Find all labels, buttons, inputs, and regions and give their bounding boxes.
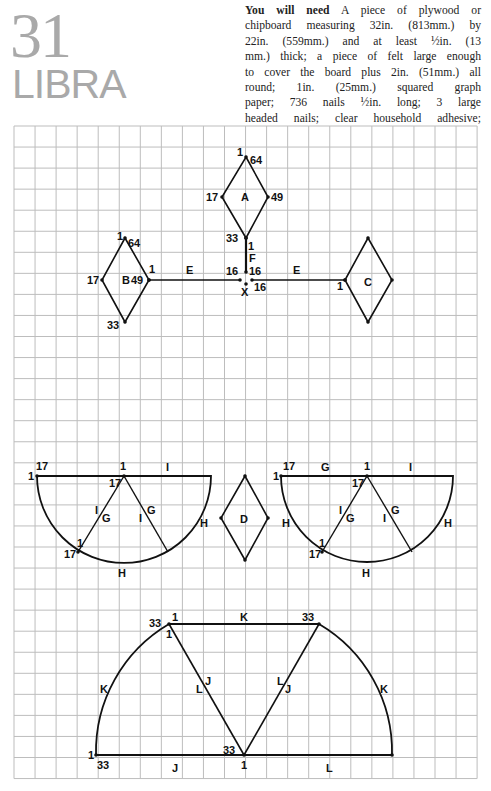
nail-dot [147, 278, 151, 282]
nail-dot [343, 278, 347, 282]
nail-label: 17 [309, 548, 321, 560]
nail-label: H [444, 517, 452, 529]
nail-label: B [122, 274, 130, 286]
nail-label: C [364, 276, 372, 288]
nail-label: A [241, 191, 249, 203]
nail-dot [94, 753, 98, 757]
nail-label: E [186, 264, 193, 276]
nail-dot [238, 278, 242, 282]
nail-label: 1 [241, 759, 247, 771]
nail-label: 1 [117, 230, 123, 242]
nail-dot [390, 278, 394, 282]
nail-label: 17 [36, 460, 48, 472]
nail-label: G [346, 512, 355, 524]
nail-label: 16 [254, 281, 266, 293]
nail-label: 1 [77, 537, 83, 549]
graph-paper-grid [14, 126, 477, 779]
nail-label: G [147, 504, 156, 516]
right-half-chord [367, 476, 412, 552]
nail-label: 33 [149, 617, 161, 629]
nail-dot [220, 195, 224, 199]
nail-label: X [241, 286, 249, 298]
nail-label: 1 [88, 749, 94, 761]
nail-label: 17 [64, 548, 76, 560]
nail-label: H [282, 517, 290, 529]
nail-dot [244, 155, 248, 159]
nail-label: 33 [97, 759, 109, 771]
nail-label: I [166, 461, 169, 473]
nail-dot [279, 474, 283, 478]
nail-label: 1 [237, 146, 243, 158]
nail-dot [266, 195, 270, 199]
nail-label: 17 [87, 274, 99, 286]
nail-label: 33 [226, 232, 238, 244]
nail-dot [366, 320, 370, 324]
nail-label: H [362, 567, 370, 579]
nail-label: 33 [223, 744, 235, 756]
nail-label: 49 [271, 191, 283, 203]
bottom-diagonal-left [169, 624, 244, 755]
nail-label: 16 [249, 265, 261, 277]
nail-label: 16 [226, 265, 238, 277]
nail-label: 1 [337, 280, 343, 292]
nail-label: L [196, 683, 203, 695]
nail-label: D [240, 513, 248, 525]
nail-label: 1 [172, 611, 178, 623]
nail-label: H [200, 517, 208, 529]
nail-label: G [102, 512, 111, 524]
nail-dot [243, 558, 247, 562]
nail-dot [122, 474, 126, 478]
nail-label: J [285, 683, 291, 695]
nail-label: 64 [128, 237, 141, 249]
nail-dot [76, 550, 80, 554]
nail-label: G [321, 461, 330, 473]
nail-dot [266, 516, 270, 520]
nail-dot [317, 622, 321, 626]
nail-label: I [409, 461, 412, 473]
nail-label: 1 [120, 460, 126, 472]
nail-label: 1 [166, 628, 172, 640]
nail-label: K [100, 683, 108, 695]
nail-dot [390, 753, 394, 757]
nail-label: 17 [352, 477, 364, 489]
nail-label: 1 [364, 460, 370, 472]
nail-label: K [380, 683, 388, 695]
nail-label: 1 [248, 240, 254, 252]
nail-label: I [383, 512, 386, 524]
nail-label: 64 [250, 154, 263, 166]
nail-label: I [139, 512, 142, 524]
nail-label: J [172, 762, 178, 774]
nail-label: H [118, 567, 126, 579]
nail-label: K [240, 611, 248, 623]
bottom-diagonal-right [244, 624, 319, 755]
nail-dot [243, 474, 247, 478]
pattern-diagram: 16417A4933116417B49331C1DEEF161616X1711I… [0, 0, 491, 791]
nail-label: 33 [107, 319, 119, 331]
nail-label: 1 [28, 470, 34, 482]
nail-label: J [205, 675, 211, 687]
nail-label: 17 [283, 460, 295, 472]
nail-label: G [391, 504, 400, 516]
nail-label: 17 [206, 191, 218, 203]
nail-dot [35, 474, 39, 478]
nail-label: 1 [149, 263, 155, 275]
nail-label: 49 [131, 274, 143, 286]
nail-dot [123, 320, 127, 324]
nail-dot [242, 753, 246, 757]
nail-dot [219, 516, 223, 520]
nail-label: I [95, 504, 98, 516]
nail-dot [167, 622, 171, 626]
nail-label: E [293, 264, 300, 276]
nail-label: 33 [302, 611, 314, 623]
nail-dot [365, 474, 369, 478]
nail-dot [244, 270, 248, 274]
nail-labels: 16417A4933116417B49331C1DEEF161616X1711I… [28, 146, 452, 774]
nail-dot [366, 236, 370, 240]
nail-label: L [326, 762, 333, 774]
nail-label: 17 [109, 477, 121, 489]
right-half-outline [281, 476, 453, 562]
nail-label: 1 [273, 470, 279, 482]
nail-dot [100, 278, 104, 282]
nail-dot [123, 236, 127, 240]
nail-label: I [339, 504, 342, 516]
